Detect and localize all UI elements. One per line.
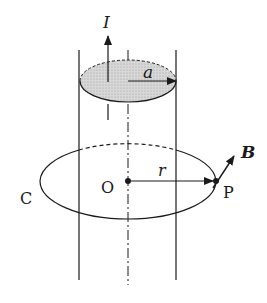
point-label: P	[223, 183, 234, 202]
radius-a-label: a	[143, 62, 153, 82]
path-label: C	[20, 189, 32, 208]
radius-r-label: r	[158, 161, 167, 180]
ampere-law-diagram: I a O r P B C	[0, 0, 267, 303]
current-label: I	[102, 12, 110, 32]
center-label: O	[101, 178, 114, 197]
field-label: B	[240, 142, 255, 162]
center-point-O	[125, 178, 131, 184]
